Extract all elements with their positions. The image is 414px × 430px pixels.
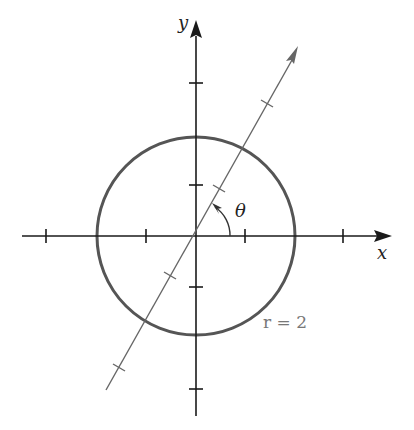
y-axis-label: y — [178, 12, 188, 33]
angle-arc — [215, 207, 230, 236]
ray-line — [106, 60, 292, 390]
theta-label: θ — [235, 200, 246, 221]
y-axis-arrow-icon — [190, 20, 202, 38]
circle-radius-label: r = 2 — [263, 312, 307, 332]
diagram-graphics — [0, 0, 414, 430]
polar-diagram: y x θ r = 2 — [0, 0, 414, 430]
ray-arrow-icon — [286, 46, 298, 64]
x-axis-label: x — [377, 242, 387, 263]
